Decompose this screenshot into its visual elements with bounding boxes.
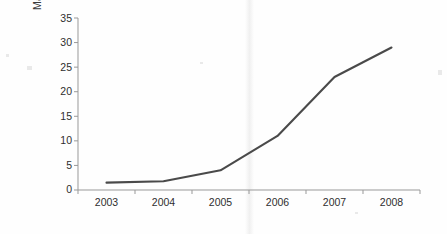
axis-lines bbox=[78, 18, 420, 190]
x-tick-marks bbox=[78, 190, 420, 194]
y-tick-marks bbox=[74, 18, 78, 190]
data-series-line bbox=[107, 48, 392, 183]
line-chart: Market Share (%) 35 30 25 20 15 10 5 0 2… bbox=[0, 0, 447, 234]
chart-canvas bbox=[0, 0, 447, 234]
chart-screenshot: Market Share (%) 35 30 25 20 15 10 5 0 2… bbox=[0, 0, 447, 234]
